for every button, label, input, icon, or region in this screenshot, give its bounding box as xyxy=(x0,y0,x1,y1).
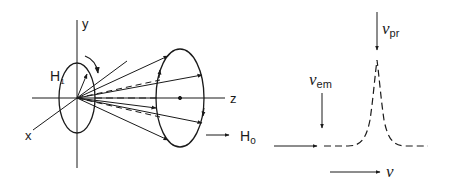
cone-vector xyxy=(77,98,202,123)
x-axis-label: x xyxy=(25,128,32,143)
diagram-canvas: y x z H1 Ho νpr νem ν xyxy=(0,0,450,192)
y-axis-label: y xyxy=(82,16,89,31)
nu-em-label: νem xyxy=(309,70,332,90)
frequency-axis-label: ν xyxy=(386,162,394,181)
cone-vector-hidden xyxy=(77,98,160,117)
resonance-profile xyxy=(274,12,428,172)
h0-label: Ho xyxy=(240,128,256,146)
h1-label-sub: 1 xyxy=(60,77,65,86)
x-axis xyxy=(33,98,77,130)
cone-vector xyxy=(77,75,202,98)
line-profile-curve xyxy=(324,60,428,146)
nu-pr-label-sub: pr xyxy=(390,27,400,39)
cone-vector xyxy=(77,98,168,140)
cone-vector xyxy=(77,56,168,98)
h0-label-sub: o xyxy=(250,135,256,146)
h1-label-main: H xyxy=(50,68,60,84)
precession-diagram xyxy=(32,20,229,168)
loop-center-dot xyxy=(178,96,181,99)
nu-pr-label: νpr xyxy=(382,19,400,39)
rotation-arrow-icon xyxy=(85,56,98,73)
z-axis-label: z xyxy=(230,91,237,106)
h0-label-main: H xyxy=(240,128,250,144)
h1-label: H1 xyxy=(50,68,65,86)
loop-arrow-up-icon xyxy=(159,70,160,78)
nu-em-label-sub: em xyxy=(317,78,332,90)
